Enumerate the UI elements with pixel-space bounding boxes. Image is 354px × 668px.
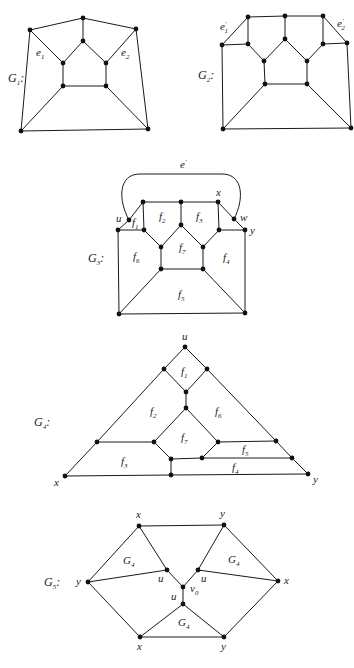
g4-vertex [274, 439, 279, 444]
g4-edge [171, 458, 202, 459]
g1-vertex [61, 61, 66, 66]
g3-edge [218, 202, 219, 230]
g5-vertex [165, 568, 170, 573]
g2-edge [222, 44, 248, 45]
g3-vertex [159, 245, 164, 250]
g3-name-label: G3: [88, 251, 104, 267]
g2-vertex [262, 59, 267, 64]
g5-name-label: G5: [44, 575, 60, 591]
g5-vertex-label-u-left: u [158, 572, 164, 584]
g4-face-label-f5: f5 [242, 443, 249, 458]
g2-vertex [349, 126, 354, 131]
g4-face-label-f1: f1 [181, 365, 188, 380]
g1-edge [30, 18, 83, 30]
g1-vertex [81, 16, 86, 21]
g4-edge [276, 441, 292, 458]
g5-vertex [222, 523, 227, 528]
g3-edge [119, 269, 161, 314]
g4-name-label: G4: [34, 415, 50, 431]
g5-region-label-g4: G4 [123, 554, 135, 569]
g5-vertex [276, 579, 281, 584]
g3-edge-label-e-prime: e' [180, 158, 187, 170]
g5-vertex [137, 524, 142, 529]
graph-figure: G1:e1e2G2:e'1e'2G3:e'uxwyf1f2f3f4f5f6f7G… [0, 0, 354, 668]
g1-name-label: G1: [8, 71, 24, 87]
g1-vertex [146, 127, 151, 132]
g2-edge [307, 44, 323, 61]
g3-edge [203, 230, 219, 247]
g4-edge [292, 458, 308, 474]
g3-vertex [243, 311, 248, 316]
g3-vertex [179, 223, 184, 228]
g2-edge [323, 43, 347, 44]
g4-vertex [200, 456, 205, 461]
g3-vertex [217, 228, 222, 233]
g5-edge [88, 570, 167, 582]
g3-vertex [159, 267, 164, 272]
g3-face-label-f7: f7 [179, 241, 186, 256]
g3-vertex [201, 245, 206, 250]
g4-face-label-f3: f3 [121, 455, 128, 470]
g3-vertex [232, 217, 237, 222]
g1-edge [63, 41, 83, 63]
g5-edge [88, 582, 140, 637]
g4-face-label-f4: f4 [232, 461, 239, 476]
g5-edge [167, 570, 183, 587]
labels-layer: G1:e1e2G2:e'1e'2G3:e'uxwyf1f2f3f4f5f6f7G… [8, 17, 345, 652]
g5-vertex [86, 580, 91, 585]
g2-vertex [305, 59, 310, 64]
g2-vertex [305, 82, 310, 87]
g5-edge [198, 570, 278, 581]
g4-edge [185, 347, 207, 369]
g2-edge [285, 39, 307, 61]
g3-edge [181, 225, 203, 247]
g2-vertex [246, 15, 251, 20]
g4-edge [97, 369, 164, 442]
g5-edge [139, 525, 224, 526]
g4-vertex [184, 406, 189, 411]
g2-edge [347, 43, 351, 128]
g2-vertex [283, 37, 288, 42]
g5-edge [198, 525, 224, 570]
g4-face-label-f2: f2 [150, 405, 157, 420]
g3-vertex-label-w: w [240, 211, 248, 223]
g1-edge [30, 30, 63, 63]
g5-edge [224, 581, 278, 637]
g1-vertex [61, 84, 66, 89]
g3-vertex [142, 228, 147, 233]
g2-vertex [221, 127, 226, 132]
g2-vertex [263, 82, 268, 87]
g1-edge [21, 129, 148, 131]
g3-vertex [127, 218, 132, 223]
g5-edge [183, 604, 224, 637]
g2-edge [264, 61, 265, 84]
g4-vertex [290, 456, 295, 461]
g3-vertex-label-x: x [215, 186, 221, 198]
g5-vertex-label-x-bottom: x [136, 640, 142, 652]
g3-face-label-f4: f4 [223, 251, 230, 266]
g5-vertex-label-y-bottom: y [220, 640, 226, 652]
g3-edge [218, 202, 234, 219]
g5-vertex-label-y-left: y [75, 575, 81, 587]
g4-vertex [152, 440, 157, 445]
g1-vertex [134, 27, 139, 32]
g5-vertex-label-x-top: x [135, 508, 141, 520]
g4-edge [202, 442, 218, 458]
g2-vertex [321, 42, 326, 47]
g5-vertex [222, 635, 227, 640]
vertices-layer [19, 14, 354, 640]
g3-vertex-label-y: y [249, 224, 255, 236]
g5-vertex-label-u-bottom: u [171, 590, 177, 602]
g2-edge [248, 44, 264, 61]
g2-edge [223, 84, 265, 129]
g4-vertex [63, 474, 68, 479]
g3-edge [203, 269, 245, 313]
g1-vertex [104, 84, 109, 89]
g1-vertex [28, 28, 33, 33]
g1-edge-label-e1: e1 [36, 46, 44, 61]
g1-edge [21, 86, 63, 131]
g3-edge [161, 225, 181, 247]
g2-edge [307, 84, 351, 128]
g4-vertex-label-u: u [182, 330, 188, 342]
g3-vertex [243, 228, 248, 233]
